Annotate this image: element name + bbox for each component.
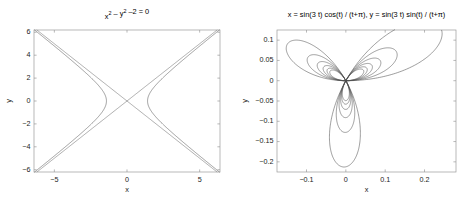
plot-frame bbox=[277, 30, 456, 172]
axes-rose-curve: x = sin(3 t) cos(t) / (t+π), y = sin(3 t… bbox=[236, 0, 473, 207]
y-tick-label: −2 bbox=[22, 119, 30, 128]
y-tick-label: 6 bbox=[27, 27, 31, 36]
x-tick-label: 0.1 bbox=[380, 175, 390, 184]
y-axis-label: y bbox=[4, 99, 13, 103]
y-tick-label: 4 bbox=[27, 50, 31, 59]
y-tick-label: 0.05 bbox=[260, 55, 274, 64]
y-tick-label: −6 bbox=[22, 165, 30, 174]
hyperbola-plot-svg: x2 – y2 –2 = 0−505−6−4−20246xy bbox=[0, 0, 237, 207]
x-axis-label: x bbox=[365, 185, 369, 194]
y-tick-label: −0.1 bbox=[259, 116, 273, 125]
x-tick-label: 0 bbox=[125, 175, 129, 184]
y-tick-label: −0.15 bbox=[255, 136, 273, 145]
x-tick-label: −0.1 bbox=[299, 175, 313, 184]
y-tick-label: 0 bbox=[27, 96, 31, 105]
y-tick-label: −0.2 bbox=[259, 157, 273, 166]
y-tick-label: −0.05 bbox=[255, 96, 273, 105]
y-tick-label: −4 bbox=[22, 142, 30, 151]
axes-hyperbola: x2 – y2 –2 = 0−505−6−4−20246xy bbox=[0, 0, 237, 207]
y-tick-label: 0 bbox=[270, 76, 274, 85]
plot-title: x = sin(3 t) cos(t) / (t+π), y = sin(3 t… bbox=[288, 10, 446, 19]
figure-canvas: x2 – y2 –2 = 0−505−6−4−20246xy x = sin(3… bbox=[0, 0, 473, 207]
x-tick-label: 0.2 bbox=[420, 175, 430, 184]
y-tick-label: 2 bbox=[27, 73, 31, 82]
y-axis-label: y bbox=[240, 99, 249, 103]
x-tick-label: 0 bbox=[344, 175, 348, 184]
plot-title: x2 – y2 –2 = 0 bbox=[105, 7, 149, 21]
x-tick-label: 5 bbox=[198, 175, 202, 184]
x-axis-label: x bbox=[125, 185, 129, 194]
rose-curve-plot-svg: x = sin(3 t) cos(t) / (t+π), y = sin(3 t… bbox=[236, 0, 473, 207]
y-tick-label: 0.1 bbox=[264, 35, 274, 44]
x-tick-label: −5 bbox=[50, 175, 58, 184]
